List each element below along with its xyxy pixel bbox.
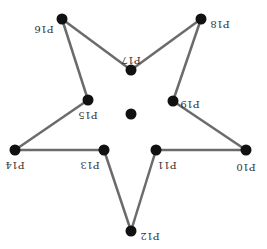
- node-p12: [126, 226, 137, 237]
- node-p14: [10, 145, 21, 156]
- label-p13: P13: [80, 160, 99, 171]
- label-p12: P12: [140, 231, 159, 242]
- label-p15: P15: [78, 110, 97, 121]
- edge-p15-p16: [62, 19, 88, 100]
- node-p15: [83, 95, 94, 106]
- label-p14: P14: [5, 160, 24, 171]
- label-p18: P18: [210, 19, 229, 30]
- label-p17: P17: [121, 55, 140, 66]
- node-p19: [168, 96, 179, 107]
- node-p18: [196, 14, 207, 25]
- label-p19: P19: [180, 99, 199, 110]
- nodes-layer: [10, 14, 252, 237]
- label-p11: P11: [157, 160, 176, 171]
- star-diagram: P10P11P12P13P14P15P16P17P18P19: [0, 0, 267, 249]
- node-p13: [99, 145, 110, 156]
- edge-p18-p19: [173, 19, 201, 101]
- edge-p12-p13: [104, 150, 131, 231]
- center-point: [126, 109, 137, 120]
- edges-layer: [15, 19, 246, 231]
- node-p10: [241, 145, 252, 156]
- label-p16: P16: [34, 24, 53, 35]
- edge-p16-p17: [62, 19, 131, 70]
- edge-p11-p12: [131, 150, 156, 231]
- edge-p14-p15: [15, 100, 88, 150]
- label-p10: P10: [236, 162, 255, 173]
- node-p16: [57, 14, 68, 25]
- node-p11: [151, 145, 162, 156]
